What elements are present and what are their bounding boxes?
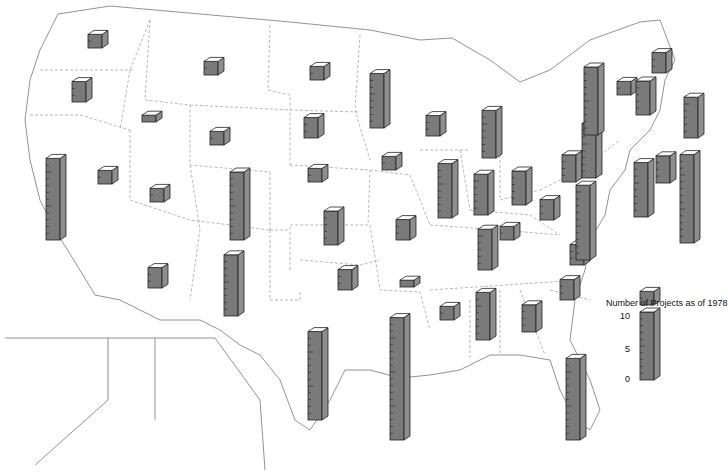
bar-tn <box>478 225 498 270</box>
bar-side <box>694 151 700 243</box>
bar-wi <box>426 112 446 136</box>
bar-front <box>560 280 574 300</box>
bar-side <box>590 181 596 260</box>
bar-front <box>652 53 666 73</box>
bar-side <box>580 354 586 440</box>
alaska-hawaii-frame <box>5 338 265 470</box>
bar-side <box>404 314 410 440</box>
bar-vt <box>617 77 637 95</box>
bar-mn <box>370 70 390 128</box>
bar-in <box>474 170 494 215</box>
bar-ut <box>150 184 170 202</box>
bar-il <box>438 160 458 218</box>
bar-ar <box>400 276 420 287</box>
bar-ky <box>500 222 520 240</box>
bar-side <box>384 70 390 128</box>
bar-side <box>452 160 458 218</box>
bar-md <box>576 181 596 260</box>
bar-me <box>652 49 672 73</box>
bar-side <box>576 151 582 182</box>
bar-ga <box>522 301 542 332</box>
bar-la <box>390 314 410 440</box>
bar-ct <box>656 152 676 183</box>
bar-co <box>230 168 250 240</box>
bar-front <box>426 116 440 136</box>
bar-ms <box>440 302 460 320</box>
bar-front <box>396 220 410 240</box>
bar-front <box>540 200 554 220</box>
bar-side <box>598 63 604 135</box>
legend-scale-bar <box>640 308 660 380</box>
bar-front <box>148 268 162 288</box>
legend-tick-10: 10 <box>616 311 630 321</box>
legend-tick-5: 5 <box>616 344 630 354</box>
bar-or <box>72 78 92 102</box>
bar-sc <box>560 276 580 300</box>
bar-side <box>338 207 344 245</box>
bar-nh <box>636 77 656 115</box>
bar-front <box>142 115 156 122</box>
bar-side <box>648 159 654 217</box>
bar-front <box>476 292 490 340</box>
bar-mo <box>396 216 416 240</box>
bar-ks <box>324 207 344 245</box>
bar-side <box>322 328 328 420</box>
bar-sd <box>304 114 324 138</box>
bar-side <box>526 167 532 205</box>
bar-side <box>490 288 496 340</box>
bar-front <box>636 81 650 115</box>
bar-al <box>476 288 496 340</box>
bar-side <box>492 225 498 270</box>
bar-wv <box>562 151 582 182</box>
bar-tx <box>308 328 328 420</box>
bar-front <box>400 280 414 287</box>
bar-ri <box>680 151 700 243</box>
bar-oh <box>512 167 532 205</box>
bar-front <box>680 155 694 243</box>
bar-side <box>670 152 676 183</box>
bar-side <box>60 154 66 240</box>
bar-mt <box>204 57 224 75</box>
bar-ma <box>684 93 704 138</box>
bar-wy <box>210 127 230 145</box>
bar-az <box>148 264 168 288</box>
legend-tick-0: 0 <box>616 374 630 384</box>
bar-mi <box>482 106 502 158</box>
bar-front <box>576 185 590 260</box>
bar-wa <box>88 30 108 48</box>
bar-ny <box>584 63 604 135</box>
bar-ia <box>382 152 402 170</box>
bar-front <box>482 110 496 158</box>
bar-side <box>650 77 656 115</box>
bar-fl <box>566 354 586 440</box>
bar-ne <box>308 164 328 182</box>
bar-nd <box>310 62 330 80</box>
bar-va <box>540 196 560 220</box>
bar-id <box>142 111 162 122</box>
bar-front <box>308 332 322 420</box>
legend-title: Number of Projects as of 1978 <box>606 298 728 308</box>
bar-side <box>496 106 502 158</box>
bar-front <box>304 118 318 138</box>
bar-nv <box>98 166 118 184</box>
bar-side <box>488 170 494 215</box>
bar-side <box>536 301 542 332</box>
bar-ok <box>338 266 358 290</box>
bar-side <box>654 308 660 380</box>
bars <box>46 30 704 440</box>
bar-nj <box>634 159 654 217</box>
bar-side <box>238 251 244 316</box>
bar-side <box>244 168 250 240</box>
bar-ca <box>46 154 66 240</box>
bar-front <box>224 255 238 316</box>
bar-front <box>72 82 86 102</box>
bar-side <box>698 93 704 138</box>
bar-front <box>338 270 352 290</box>
bar-front <box>512 171 526 205</box>
legend-bar <box>640 308 660 380</box>
bar-nm <box>224 251 244 316</box>
bar-front <box>324 211 338 245</box>
